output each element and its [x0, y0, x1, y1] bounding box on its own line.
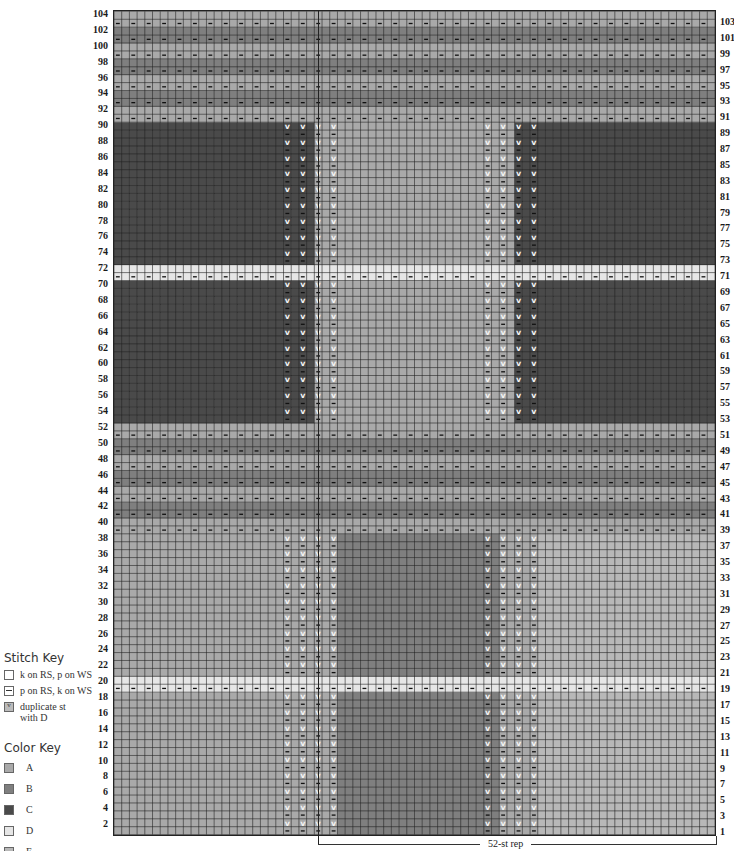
- svg-text:v: v: [501, 803, 507, 812]
- svg-text:v: v: [516, 613, 522, 622]
- svg-text:v: v: [300, 359, 306, 368]
- svg-text:v: v: [331, 708, 337, 717]
- svg-text:v: v: [531, 201, 537, 210]
- row-label: 4: [80, 803, 108, 813]
- svg-text:v: v: [331, 154, 337, 163]
- svg-text:v: v: [516, 296, 522, 305]
- svg-text:v: v: [501, 407, 507, 416]
- svg-text:v: v: [501, 138, 507, 147]
- svg-text:v: v: [285, 233, 291, 242]
- svg-text:v: v: [531, 660, 537, 669]
- svg-text:v: v: [331, 581, 337, 590]
- row-label: 24: [80, 644, 108, 654]
- svg-text:v: v: [300, 375, 306, 384]
- svg-text:v: v: [485, 359, 491, 368]
- svg-text:v: v: [285, 359, 291, 368]
- svg-text:v: v: [485, 660, 491, 669]
- row-label: 2: [80, 819, 108, 829]
- svg-text:v: v: [300, 597, 306, 606]
- row-label: 94: [80, 88, 108, 98]
- svg-text:v: v: [531, 724, 537, 733]
- svg-text:v: v: [300, 660, 306, 669]
- row-label: 86: [80, 152, 108, 162]
- svg-text:v: v: [285, 122, 291, 131]
- svg-text:v: v: [285, 154, 291, 163]
- svg-text:v: v: [516, 280, 522, 289]
- row-label: 57: [720, 382, 730, 392]
- svg-text:v: v: [331, 249, 337, 258]
- row-label: 98: [80, 57, 108, 67]
- svg-text:v: v: [300, 217, 306, 226]
- svg-text:v: v: [485, 692, 491, 701]
- svg-text:v: v: [501, 724, 507, 733]
- svg-text:v: v: [531, 122, 537, 131]
- row-label: 95: [720, 81, 730, 91]
- svg-text:v: v: [285, 328, 291, 337]
- row-label: 68: [80, 295, 108, 305]
- row-label: 1: [720, 827, 725, 837]
- svg-text:v: v: [285, 755, 291, 764]
- svg-text:v: v: [331, 565, 337, 574]
- row-label: 48: [80, 454, 108, 464]
- row-label: 71: [720, 271, 730, 281]
- svg-text:v: v: [300, 724, 306, 733]
- svg-text:v: v: [516, 660, 522, 669]
- row-label: 7: [720, 779, 725, 789]
- svg-text:v: v: [516, 581, 522, 590]
- svg-text:v: v: [300, 629, 306, 638]
- svg-text:v: v: [485, 312, 491, 321]
- row-label: 82: [80, 184, 108, 194]
- svg-text:v: v: [285, 549, 291, 558]
- svg-text:v: v: [485, 803, 491, 812]
- svg-text:v: v: [501, 328, 507, 337]
- svg-text:v: v: [485, 597, 491, 606]
- svg-text:v: v: [300, 739, 306, 748]
- row-label: 32: [80, 581, 108, 591]
- row-label: 23: [720, 652, 730, 662]
- svg-text:v: v: [501, 739, 507, 748]
- svg-text:v: v: [516, 328, 522, 337]
- svg-text:v: v: [516, 771, 522, 780]
- svg-text:v: v: [501, 122, 507, 131]
- svg-text:v: v: [485, 344, 491, 353]
- svg-text:v: v: [531, 644, 537, 653]
- row-label: 80: [80, 200, 108, 210]
- svg-text:v: v: [485, 755, 491, 764]
- svg-text:v: v: [531, 407, 537, 416]
- row-label: 93: [720, 96, 730, 106]
- row-label: 44: [80, 486, 108, 496]
- row-label: 92: [80, 104, 108, 114]
- svg-text:v: v: [531, 613, 537, 622]
- svg-text:v: v: [485, 122, 491, 131]
- row-label: 90: [80, 120, 108, 130]
- svg-text:v: v: [516, 185, 522, 194]
- svg-text:v: v: [531, 534, 537, 543]
- svg-text:v: v: [331, 549, 337, 558]
- svg-text:v: v: [300, 771, 306, 780]
- row-label: 63: [720, 335, 730, 345]
- svg-text:v: v: [516, 708, 522, 717]
- row-label: 65: [720, 319, 730, 329]
- svg-text:v: v: [516, 739, 522, 748]
- row-label: 26: [80, 629, 108, 639]
- row-label: 41: [720, 509, 730, 519]
- svg-text:v: v: [485, 296, 491, 305]
- svg-text:v: v: [285, 391, 291, 400]
- svg-text:v: v: [331, 803, 337, 812]
- svg-text:v: v: [285, 739, 291, 748]
- row-label: 91: [720, 112, 730, 122]
- svg-text:v: v: [300, 344, 306, 353]
- row-label: 15: [720, 716, 730, 726]
- svg-text:v: v: [485, 581, 491, 590]
- row-label: 51: [720, 430, 730, 440]
- svg-text:v: v: [300, 644, 306, 653]
- svg-text:v: v: [485, 739, 491, 748]
- svg-text:v: v: [516, 787, 522, 796]
- svg-text:v: v: [501, 613, 507, 622]
- svg-text:v: v: [501, 296, 507, 305]
- svg-text:v: v: [285, 344, 291, 353]
- svg-text:v: v: [531, 692, 537, 701]
- row-label: 58: [80, 374, 108, 384]
- svg-text:v: v: [485, 724, 491, 733]
- svg-text:v: v: [485, 708, 491, 717]
